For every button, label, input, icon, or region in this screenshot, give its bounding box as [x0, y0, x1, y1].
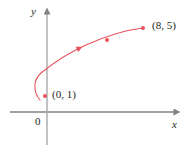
end-point-marker	[141, 26, 145, 30]
start-point-label: (0, 1)	[52, 89, 76, 100]
end-point-label: (8, 5)	[152, 20, 176, 31]
origin-label: 0	[35, 116, 41, 127]
y-axis-label: y	[31, 6, 36, 17]
mid-point-marker	[105, 38, 109, 42]
parametric-curve-figure: y x 0 (0, 1) (8, 5)	[0, 0, 193, 152]
start-point-marker	[43, 94, 47, 98]
x-axis-label: x	[172, 119, 177, 130]
